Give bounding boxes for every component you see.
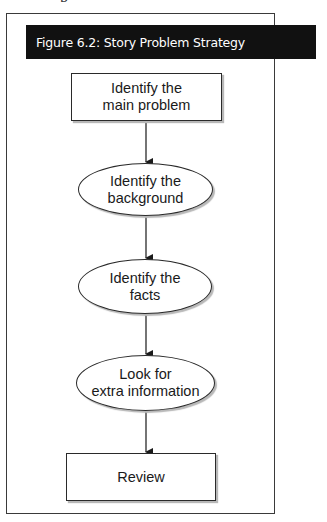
node-label-line2: background: [108, 190, 184, 207]
node-look-for-extra-information: Look for extra information: [76, 355, 215, 411]
node-label-line1: Review: [117, 469, 165, 486]
node-label-line1: Identify the: [110, 270, 181, 287]
node-label-line1: Identify the: [108, 173, 184, 190]
node-label-line1: Look for: [92, 366, 200, 383]
node-label-line2: main problem: [103, 97, 191, 114]
node-identify-main-problem: Identify the main problem: [71, 73, 222, 121]
node-label-line2: facts: [110, 287, 181, 304]
node-identify-background: Identify the background: [78, 163, 213, 216]
node-label-line2: extra information: [92, 383, 200, 400]
node-review: Review: [66, 453, 216, 501]
node-label-line1: Identify the: [103, 80, 191, 97]
node-identify-facts: Identify the facts: [78, 259, 212, 314]
